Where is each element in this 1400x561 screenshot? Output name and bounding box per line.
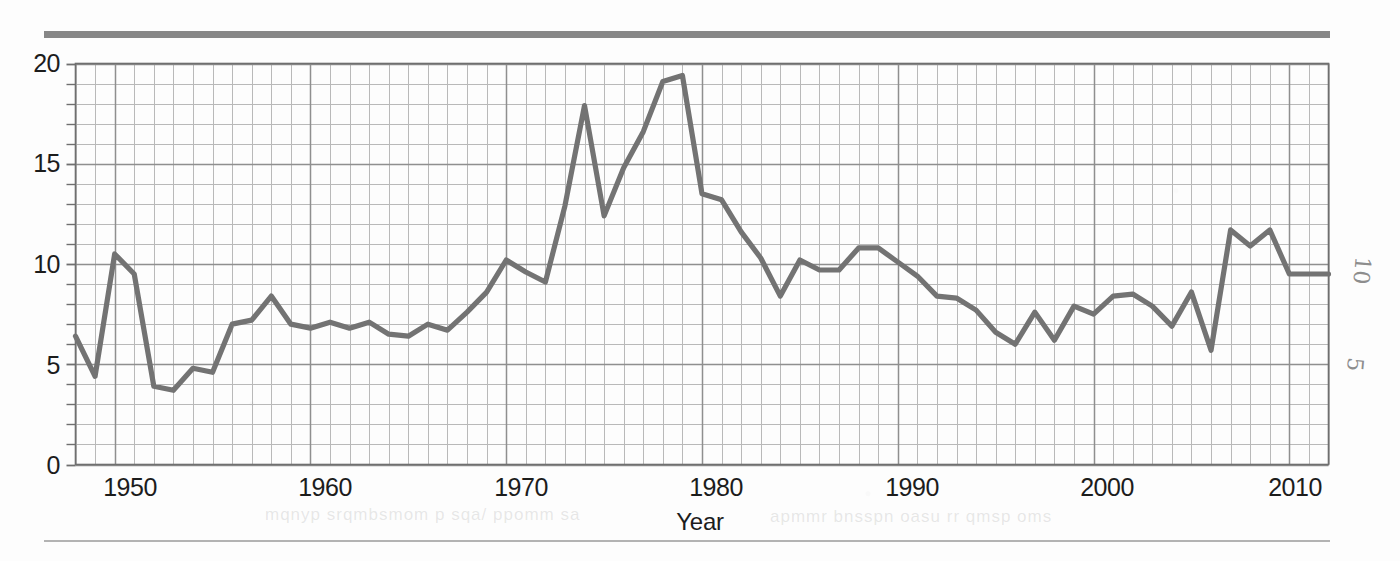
y-tick-label-0: 0 (0, 451, 60, 480)
handwritten-note-10: 10 (1348, 255, 1375, 285)
x-axis-title: Year (600, 508, 800, 536)
figure-page: mqnyp srqmbsmom p sqa/ ppomm sa apmmr bn… (0, 0, 1400, 561)
y-tick-label-20: 20 (0, 49, 60, 78)
x-tick-label-1960: 1960 (265, 473, 385, 502)
x-tick-label-2010: 2010 (1235, 473, 1355, 502)
x-tick-label-1990: 1990 (852, 473, 972, 502)
y-axis-tick-marks (67, 65, 76, 466)
x-tick-label-1950: 1950 (70, 473, 190, 502)
x-tick-label-1970: 1970 (461, 473, 581, 502)
y-tick-label-10: 10 (0, 250, 60, 279)
x-tick-label-2000: 2000 (1047, 473, 1167, 502)
y-tick-label-5: 5 (0, 351, 60, 380)
grid-major (76, 64, 1329, 466)
x-tick-label-1980: 1980 (656, 473, 776, 502)
handwritten-note-5: 5 (1342, 356, 1368, 372)
y-tick-label-15: 15 (0, 149, 60, 178)
